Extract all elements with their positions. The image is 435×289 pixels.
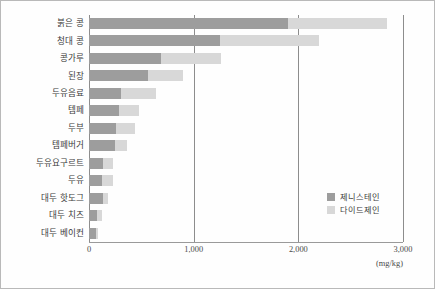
y-axis-label: 두유요구르트 [1,159,84,168]
bar-segment-genistein [89,88,121,99]
stacked-bar [89,18,387,29]
bar-segment-daidzein [115,140,127,151]
bar-segment-genistein [89,175,102,186]
x-tick-label: 2,000 [289,245,308,254]
y-axis-label: 템페버거 [1,141,84,150]
x-tick-label: 1,000 [184,245,203,254]
bar-segment-daidzein [288,18,387,29]
bar-segment-daidzein [102,175,114,186]
y-axis-label: 대두 베이컨 [1,229,84,238]
y-axis-label: 된장 [1,72,84,81]
bar-row [89,50,403,67]
bar-row [89,67,403,84]
bar-segment-daidzein [96,228,98,239]
stacked-bar [89,228,98,239]
y-axis-label: 대두 치즈 [1,211,84,220]
stacked-bar [89,88,156,99]
bar-row [89,172,403,189]
x-axis-unit-label: (mg/kg) [376,259,403,268]
y-axis-label: 두유음료 [1,89,84,98]
legend-label: 다이드제인 [340,206,380,214]
stacked-bar [89,53,221,64]
stacked-bar [89,140,127,151]
stacked-bar [89,35,319,46]
bar-segment-genistein [89,193,103,204]
bar-segment-genistein [89,123,116,134]
bar-segment-genistein [89,105,119,116]
bar-segment-daidzein [97,210,102,221]
x-axis-line [89,242,403,243]
bar-row [89,225,403,242]
y-axis-category-labels: 붉은 콩청대 콩콩가루된장두유음료템페두부템페버거두유요구르트두유대두 핫도그대… [1,15,84,242]
bar-segment-genistein [89,140,115,151]
bar-segment-daidzein [119,105,139,116]
bar-segment-genistein [89,158,103,169]
stacked-bar [89,193,108,204]
bar-segment-daidzein [161,53,221,64]
y-axis-label: 두부 [1,124,84,133]
bar-row [89,85,403,102]
stacked-bar [89,123,135,134]
bar-row [89,155,403,172]
bar-row [89,102,403,119]
x-tick-label: 3,000 [394,245,413,254]
bar-row [89,15,403,32]
legend-swatch-icon [327,206,335,214]
chart-figure: 붉은 콩청대 콩콩가루된장두유음료템페두부템페버거두유요구르트두유대두 핫도그대… [0,0,435,289]
bar-segment-daidzein [148,70,184,81]
bar-segment-daidzein [121,88,156,99]
stacked-bar [89,175,113,186]
bar-segment-daidzein [220,35,319,46]
bar-segment-genistein [89,35,220,46]
stacked-bar [89,158,113,169]
y-axis-label: 콩가루 [1,54,84,63]
bar-row [89,137,403,154]
bar-segment-genistein [89,53,161,64]
bar-row [89,120,403,137]
y-axis-label: 붉은 콩 [1,19,84,28]
bar-segment-genistein [89,228,96,239]
bar-segment-genistein [89,210,97,221]
bar-row [89,32,403,49]
y-axis-label: 템페 [1,106,84,115]
y-axis-label: 청대 콩 [1,37,84,46]
stacked-bar [89,210,102,221]
x-tick-label: 0 [87,245,91,254]
legend-swatch-icon [327,193,335,201]
bar-segment-daidzein [103,158,113,169]
y-axis-label: 대두 핫도그 [1,194,84,203]
bar-segment-daidzein [116,123,135,134]
bar-segment-genistein [89,18,288,29]
legend-label: 제니스테인 [340,193,380,201]
legend: 제니스테인다이드제인 [327,193,380,219]
legend-item: 다이드제인 [327,206,380,214]
stacked-bar [89,105,139,116]
bar-segment-daidzein [103,193,108,204]
bar-segment-genistein [89,70,148,81]
legend-item: 제니스테인 [327,193,380,201]
gridline-3000 [403,15,404,242]
y-axis-label: 두유 [1,176,84,185]
stacked-bar [89,70,183,81]
